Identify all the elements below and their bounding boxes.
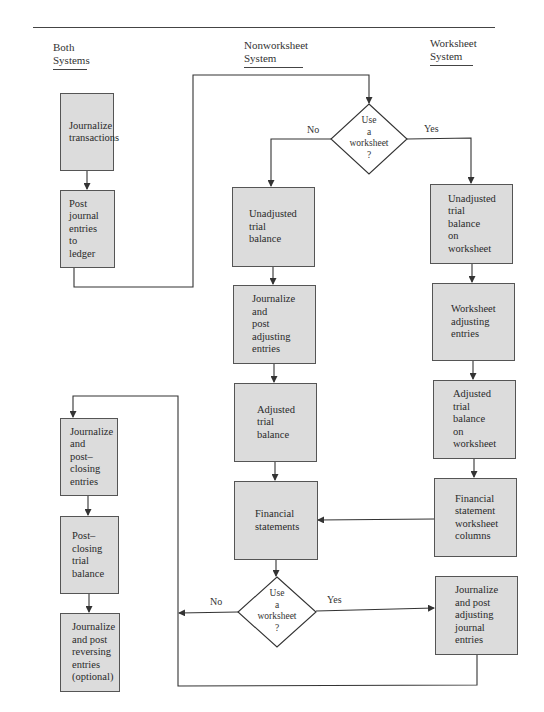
box-text: Adjusted trial balance on worksheet bbox=[434, 388, 496, 451]
box-financial-statement-worksheet-columns: Financial statement worksheet columns bbox=[434, 478, 517, 557]
box-text: Worksheet adjusting entries bbox=[433, 303, 496, 341]
box-text: Post–closing trial balance bbox=[61, 530, 118, 580]
decision-top-yes-label: Yes bbox=[424, 123, 439, 134]
box-text: Unadjusted trial balance on worksheet bbox=[431, 193, 496, 256]
box-adjusted-trial-balance-on-worksheet: Adjusted trial balance on worksheet bbox=[433, 380, 516, 459]
box-journalize-post-reversing-entries: Journalize and post reversing entries (o… bbox=[60, 613, 120, 692]
box-journalize-post-adjusting-journal-entries: Journalize and post adjusting journal en… bbox=[435, 576, 518, 655]
box-text: Financial statements bbox=[235, 508, 299, 533]
box-unadjusted-trial-balance: Unadjusted trial balance bbox=[232, 187, 315, 267]
decision-bottom-text: Use a worksheet ? bbox=[247, 588, 307, 634]
box-worksheet-adjusting-entries: Worksheet adjusting entries bbox=[432, 283, 515, 361]
box-text: Journalize and post adjusting journal en… bbox=[436, 584, 498, 647]
box-post-closing-trial-balance: Post–closing trial balance bbox=[60, 516, 119, 594]
box-text: Post journal entries to ledger bbox=[61, 198, 114, 261]
box-text: Journalize and post adjusting entries bbox=[234, 293, 295, 356]
decision-bottom-no-label: No bbox=[210, 596, 222, 607]
box-journalize-post-adjusting-entries: Journalize and post adjusting entries bbox=[233, 285, 316, 364]
box-text: Journalize and post– closing entries bbox=[61, 426, 113, 489]
box-unadjusted-trial-balance-on-worksheet: Unadjusted trial balance on worksheet bbox=[430, 184, 513, 264]
decision-top-no-label: No bbox=[307, 124, 319, 135]
box-journalize-transactions: Journalize transactions bbox=[60, 93, 114, 171]
box-financial-statements: Financial statements bbox=[234, 481, 318, 560]
box-text: Journalize transactions bbox=[61, 120, 119, 145]
box-text: Journalize and post reversing entries (o… bbox=[61, 621, 115, 684]
box-text: Financial statement worksheet columns bbox=[435, 493, 498, 543]
box-adjusted-trial-balance: Adjusted trial balance bbox=[234, 383, 317, 462]
decision-bottom-yes-label: Yes bbox=[327, 594, 342, 605]
box-text: Unadjusted trial balance bbox=[233, 208, 297, 246]
box-text: Adjusted trial balance bbox=[235, 404, 295, 442]
decision-top-text: Use a worksheet ? bbox=[339, 115, 399, 161]
box-post-journal-entries: Post journal entries to ledger bbox=[60, 190, 115, 268]
box-journalize-post-closing-entries: Journalize and post– closing entries bbox=[60, 418, 118, 496]
